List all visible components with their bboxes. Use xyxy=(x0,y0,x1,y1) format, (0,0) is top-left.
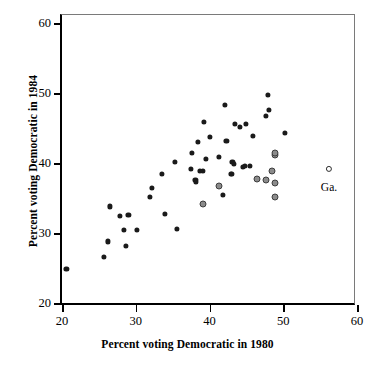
y-tick-label: 40 xyxy=(39,156,52,171)
data-point xyxy=(216,183,223,190)
data-point xyxy=(188,167,193,172)
data-point xyxy=(174,226,179,231)
data-point xyxy=(269,168,276,175)
data-point xyxy=(147,195,152,200)
data-point xyxy=(282,130,287,135)
x-tick-mark xyxy=(62,305,64,312)
data-point xyxy=(250,133,255,138)
data-point xyxy=(208,135,213,140)
y-tick-mark xyxy=(54,163,61,165)
data-point xyxy=(172,160,177,165)
x-tick-mark xyxy=(210,305,212,312)
y-tick-label: 30 xyxy=(39,226,52,241)
data-point xyxy=(121,227,126,232)
data-point xyxy=(126,212,131,217)
y-tick-mark xyxy=(54,93,61,95)
data-point xyxy=(243,121,248,126)
x-tick-mark xyxy=(357,305,359,312)
data-point xyxy=(231,161,236,166)
x-axis-title: Percent voting Democratic in 1980 xyxy=(0,338,375,350)
data-point xyxy=(262,176,269,183)
data-point xyxy=(101,254,106,259)
y-tick-label: 60 xyxy=(39,16,52,31)
data-point xyxy=(160,172,165,177)
data-point xyxy=(229,172,234,177)
data-point xyxy=(272,180,279,187)
data-point xyxy=(247,163,252,168)
data-point xyxy=(135,227,140,232)
x-tick-label: 60 xyxy=(351,314,364,329)
data-point xyxy=(201,119,206,124)
data-point xyxy=(200,168,205,173)
y-tick-mark xyxy=(54,303,61,305)
scatter-plot-figure: Percent voting Democratic in 1984 Percen… xyxy=(0,0,375,370)
y-tick-label: 20 xyxy=(39,296,52,311)
x-tick-label: 40 xyxy=(203,314,216,329)
x-tick-mark xyxy=(283,305,285,312)
x-tick-label: 20 xyxy=(56,314,69,329)
data-point xyxy=(254,176,261,183)
data-point xyxy=(189,151,194,156)
data-point xyxy=(216,154,221,159)
y-tick-mark xyxy=(54,233,61,235)
y-tick-label: 50 xyxy=(39,86,52,101)
data-point xyxy=(267,107,272,112)
data-point xyxy=(220,193,225,198)
data-point xyxy=(264,114,269,119)
data-point xyxy=(194,179,199,184)
x-tick-label: 50 xyxy=(277,314,290,329)
data-point xyxy=(149,185,154,190)
data-point xyxy=(326,166,332,172)
data-point xyxy=(224,139,229,144)
data-point xyxy=(203,156,208,161)
data-point xyxy=(124,243,129,248)
data-point xyxy=(107,204,112,209)
y-axis-title: Percent voting Democratic in 1984 xyxy=(27,36,39,286)
plot-area: 2030405060 2030405060 Ga. xyxy=(60,14,355,305)
data-point xyxy=(163,212,168,217)
x-tick-label: 30 xyxy=(130,314,143,329)
data-point xyxy=(105,239,110,244)
data-point xyxy=(222,102,227,107)
data-point xyxy=(272,149,279,156)
point-annotation-label: Ga. xyxy=(321,181,337,193)
data-point xyxy=(199,200,206,207)
data-point xyxy=(237,125,242,130)
data-point xyxy=(118,214,123,219)
y-tick-mark xyxy=(54,23,61,25)
data-point xyxy=(64,266,69,271)
data-point xyxy=(272,194,279,201)
data-point xyxy=(265,93,270,98)
x-tick-mark xyxy=(136,305,138,312)
data-point xyxy=(195,139,200,144)
